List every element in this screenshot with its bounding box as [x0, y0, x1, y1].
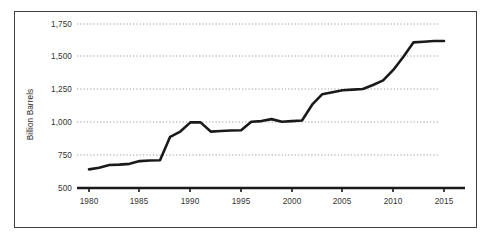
chart-figure: Billion Barrels 1,750 1,500 1,250 1,000 …: [0, 0, 494, 246]
data-line-proved-reserves: [89, 41, 444, 169]
chart-plot-svg: [0, 0, 494, 246]
grid-lines: [77, 24, 440, 155]
